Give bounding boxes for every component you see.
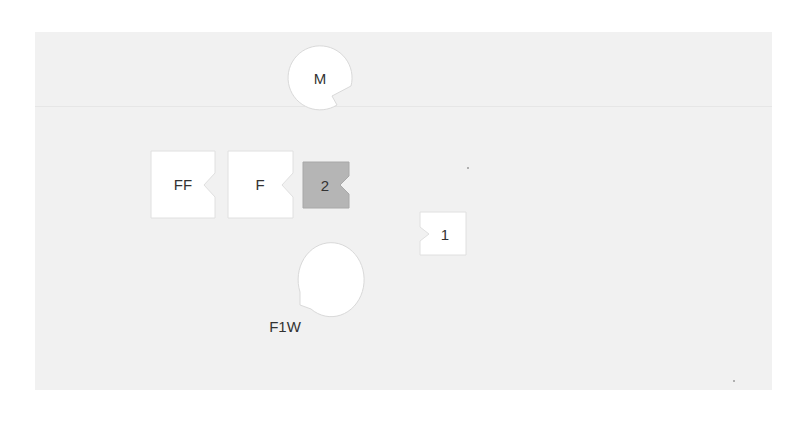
node-ff[interactable]: FF — [151, 151, 215, 218]
node-2-label: 2 — [321, 177, 329, 194]
diagram-canvas: M FF F 2 1 F1W — [0, 0, 794, 423]
stray-dot — [733, 380, 735, 382]
node-2[interactable]: 2 — [303, 162, 349, 208]
node-1[interactable]: 1 — [420, 212, 466, 255]
stray-dot — [467, 167, 469, 169]
node-1-label: 1 — [441, 226, 449, 243]
node-f1w[interactable]: F1W — [269, 243, 364, 335]
node-f-label: F — [255, 176, 264, 193]
node-ff-label: FF — [174, 176, 192, 193]
node-m-label: M — [314, 70, 327, 87]
node-f[interactable]: F — [228, 151, 293, 218]
node-f1w-label: F1W — [269, 318, 302, 335]
node-m[interactable]: M — [288, 46, 352, 110]
